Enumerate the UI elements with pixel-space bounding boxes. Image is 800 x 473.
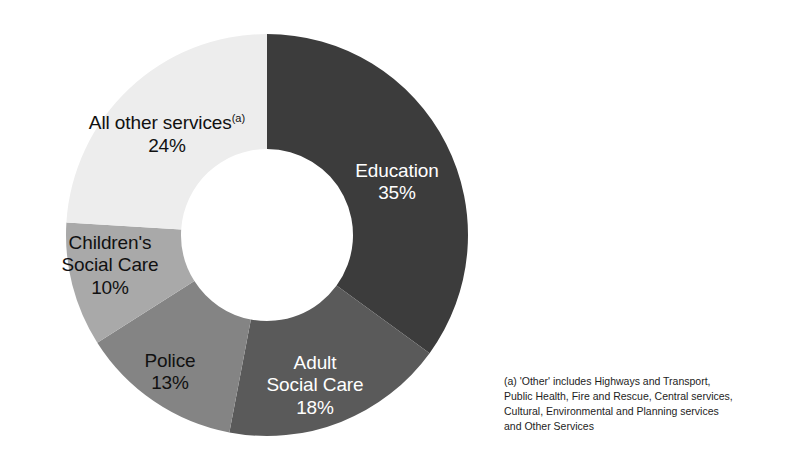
chart-footnote-line-3: Cultural, Environmental and Planning ser…	[504, 404, 794, 419]
chart-footnote-line-1: (a) 'Other' includes Highways and Transp…	[504, 374, 794, 389]
chart-footnote: (a) 'Other' includes Highways and Transp…	[504, 374, 794, 434]
donut-slice-group	[66, 34, 468, 436]
donut-chart: All other services(a) 24% Education 35% …	[0, 0, 800, 473]
donut-slice-education	[267, 34, 468, 353]
chart-footnote-line-4: and Other Services	[504, 419, 794, 434]
donut-slice-all-other-services	[66, 34, 267, 230]
chart-footnote-line-2: Public Health, Fire and Rescue, Central …	[504, 389, 794, 404]
